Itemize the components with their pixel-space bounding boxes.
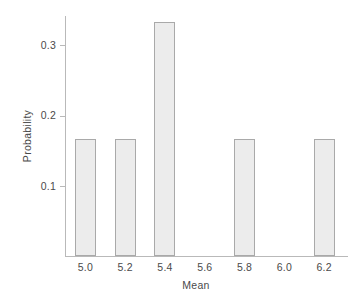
x-tick-label-0: 5.0 [78,262,93,273]
bar-5-8 [234,139,255,257]
y-tick-label-1: 0.2 [41,110,56,121]
y-tick-mark-1 [60,116,66,117]
x-tick-label-1: 5.2 [118,262,133,273]
y-tick-label-0: 0.1 [41,181,56,192]
bar-5-0 [75,139,96,257]
y-tick-mark-0 [60,186,66,187]
y-axis-line [65,16,66,257]
x-tick-label-4: 5.8 [237,262,252,273]
chart-figure: 0.1 0.2 0.3 5.0 5.2 5.4 5.6 5.8 6.0 6.2 … [0,0,364,302]
bar-5-4 [154,22,175,257]
bar-6-2 [314,139,335,257]
plot-area: 0.1 0.2 0.3 5.0 5.2 5.4 5.6 5.8 6.0 6.2 … [0,0,364,302]
bar-5-2 [115,139,136,257]
y-tick-label-2: 0.3 [41,40,56,51]
x-axis-title: Mean [182,280,209,291]
x-axis-line [65,256,348,257]
x-tick-label-3: 5.6 [197,262,212,273]
x-tick-label-5: 6.0 [277,262,292,273]
y-tick-mark-2 [60,45,66,46]
y-axis-title: Probability [22,110,33,162]
x-tick-label-2: 5.4 [157,262,172,273]
x-tick-label-6: 6.2 [317,262,332,273]
